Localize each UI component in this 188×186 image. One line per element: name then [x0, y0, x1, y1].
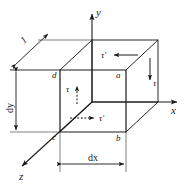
stress-top-label: τ′: [101, 50, 107, 60]
stress-right-label: τ: [153, 78, 157, 88]
cube-stress-diagram: y x z a b c d τ′ τ τ: [0, 0, 188, 186]
axis-z: [22, 102, 92, 166]
vertex-a-label: a: [116, 70, 121, 80]
axis-y-label: y: [95, 6, 101, 18]
height-dimension-label: dy: [4, 103, 15, 113]
axis-z-label: z: [18, 170, 24, 182]
stress-interior-vertical-label: τ: [66, 84, 70, 94]
width-dimension-label: dx: [88, 152, 98, 163]
figure-canvas: y x z a b c d τ′ τ τ: [0, 0, 188, 186]
axis-x-label: x: [170, 104, 176, 116]
vertex-d-label: d: [52, 70, 57, 80]
vertex-b-label: b: [116, 133, 121, 143]
stress-interior-horizontal-label: τ′: [99, 113, 105, 123]
depth-dimension-label: 1: [18, 34, 29, 45]
vertex-c-label: c: [52, 132, 56, 142]
